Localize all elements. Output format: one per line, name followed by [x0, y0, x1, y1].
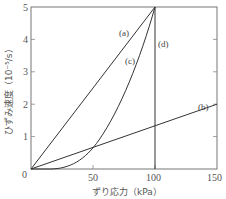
label-d: (d) [158, 39, 169, 49]
x-axis-label: ずり応力（kPa） [92, 186, 162, 197]
x-tick-50: 50 [88, 172, 98, 183]
y-tick-3: 3 [23, 66, 28, 77]
series-a-line [31, 7, 155, 169]
y-tick-1: 1 [23, 131, 28, 142]
x-axis [93, 165, 155, 169]
x-tick-100: 100 [146, 172, 161, 183]
label-b: (b) [198, 102, 209, 112]
y-tick-2: 2 [23, 99, 28, 110]
label-c: (c) [125, 56, 135, 66]
y-axis-label: ひずみ速度（10⁻⁵/s） [3, 44, 14, 135]
series-b-line [31, 104, 217, 169]
label-a: (a) [119, 28, 129, 38]
y-tick-0: 0 [22, 169, 27, 180]
y-axis [31, 39, 217, 136]
chart: 0 1 2 3 4 5 50 100 150 ずり応力（kPa） ひずみ速度（1… [0, 0, 226, 199]
x-tick-150: 150 [207, 172, 222, 183]
y-tick-4: 4 [23, 34, 28, 45]
y-tick-5: 5 [23, 2, 28, 13]
